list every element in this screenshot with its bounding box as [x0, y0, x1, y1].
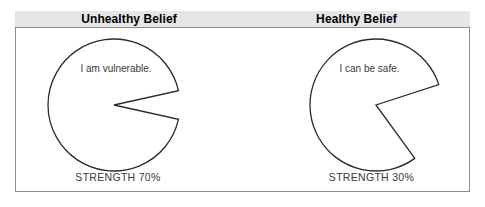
pie-wrap-healthy: I can be safe. [244, 28, 471, 166]
belief-strength-worksheet: Unhealthy Belief Healthy Belief I am vul… [0, 0, 485, 207]
column-title-healthy-belief: Healthy Belief [243, 11, 470, 28]
panel-healthy-belief: I can be safe. STRENGTH 30% [244, 28, 471, 191]
column-title-unhealthy-belief: Unhealthy Belief [15, 11, 243, 28]
pie-chart-healthy-belief [306, 36, 446, 174]
pie-chart-unhealthy-belief [44, 36, 184, 174]
panel-unhealthy-belief: I am vulnerable. STRENGTH 70% [16, 28, 244, 191]
pie-wedge-healthy-belief [310, 39, 439, 171]
header-band: Unhealthy Belief Healthy Belief [15, 11, 470, 28]
pie-wrap-unhealthy: I am vulnerable. [16, 28, 244, 166]
pie-wedge-unhealthy-belief [48, 39, 178, 171]
strength-label-healthy: STRENGTH 30% [258, 171, 485, 183]
content-frame: I am vulnerable. STRENGTH 70% I can be s… [15, 27, 470, 192]
strength-label-unhealthy: STRENGTH 70% [4, 171, 232, 183]
